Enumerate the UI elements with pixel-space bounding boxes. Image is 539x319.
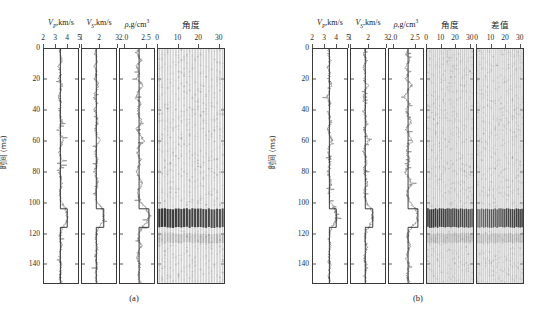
log-curve-density	[389, 48, 423, 283]
column-title-density: ρ,g/cm3	[394, 18, 419, 29]
x-tick-label-vs: 2	[97, 33, 101, 42]
x-tick-mark	[350, 44, 351, 48]
track-top-rule	[81, 48, 117, 49]
y-tick-label: 60	[302, 137, 310, 145]
x-tick-label-density: 2.5	[410, 33, 419, 42]
y-axis-label: 时间 (ms)	[0, 135, 8, 168]
log-curve-vp	[313, 48, 347, 283]
track-bottom-rule	[43, 283, 79, 284]
x-tick-label-vp: 3	[322, 33, 326, 42]
track-top-rule	[476, 48, 524, 49]
x-tick-mark	[43, 44, 44, 48]
track-bottom-rule	[426, 283, 474, 284]
x-tick-mark	[146, 44, 147, 48]
log-curve-vp	[44, 48, 78, 283]
y-tick-label: 120	[298, 230, 309, 238]
track-vs	[350, 48, 386, 283]
y-tick-label: 40	[33, 106, 41, 114]
x-tick-mark	[470, 44, 471, 48]
x-tick-mark	[441, 44, 442, 48]
x-tick-label-vp: 2	[41, 33, 45, 42]
x-tick-mark	[124, 44, 125, 48]
log-curve-density	[120, 48, 154, 283]
track-vp	[312, 48, 348, 283]
track-density	[119, 48, 155, 283]
panel-b: 时间 (ms)020406080100120140VP,km/s2345VS,k…	[269, 0, 539, 319]
x-tick-label-density: 2.0	[388, 33, 397, 42]
x-tick-label-angle-gather: 30	[466, 33, 474, 42]
column-title-vs: VS,km/s	[86, 18, 111, 29]
x-tick-label-angle-gather: 10	[174, 33, 182, 42]
x-tick-label-vs: 2	[366, 33, 370, 42]
gather-angle-gather	[158, 48, 224, 283]
x-tick-mark	[219, 44, 220, 48]
x-tick-mark	[157, 44, 158, 48]
track-bottom-rule	[388, 283, 424, 284]
x-tick-label-angle-gather: 20	[194, 33, 202, 42]
x-tick-mark	[476, 44, 477, 48]
column-title-density: ρ,g/cm3	[125, 18, 150, 29]
x-tick-mark	[79, 44, 80, 48]
track-bottom-rule	[119, 283, 155, 284]
x-tick-label-vp: 4	[65, 33, 69, 42]
x-tick-label-difference-gather: 30	[516, 33, 524, 42]
y-tick-label: 80	[302, 168, 310, 176]
x-tick-label-vs: 1	[79, 33, 83, 42]
y-tick-label: 60	[33, 137, 41, 145]
track-top-rule	[119, 48, 155, 49]
y-tick-label: 140	[298, 261, 309, 269]
panel-caption-b: (b)	[413, 293, 423, 303]
x-tick-label-angle-gather: 30	[215, 33, 223, 42]
y-axis-label: 时间 (ms)	[266, 135, 277, 168]
x-tick-mark	[368, 44, 369, 48]
x-tick-label-vp: 2	[310, 33, 314, 42]
gather-difference-gather	[477, 48, 523, 283]
column-title-vs: VS,km/s	[355, 18, 380, 29]
x-tick-label-difference-gather: 20	[501, 33, 509, 42]
x-tick-mark	[505, 44, 506, 48]
x-tick-mark	[336, 44, 337, 48]
column-title-vp: VP,km/s	[317, 18, 343, 29]
track-top-rule	[312, 48, 348, 49]
track-bottom-rule	[350, 283, 386, 284]
x-tick-mark	[491, 44, 492, 48]
track-density	[388, 48, 424, 283]
column-title-vp: VP,km/s	[48, 18, 74, 29]
x-tick-mark	[81, 44, 82, 48]
x-tick-mark	[178, 44, 179, 48]
column-title-difference-gather: 差值	[491, 18, 509, 30]
x-tick-label-vs: 1	[348, 33, 352, 42]
y-tick-label: 80	[33, 168, 41, 176]
y-tick-label: 0	[36, 44, 40, 52]
track-vp	[43, 48, 79, 283]
x-tick-label-density: 2.5	[141, 33, 150, 42]
x-tick-mark	[99, 44, 100, 48]
track-top-rule	[43, 48, 79, 49]
y-tick-label: 0	[305, 44, 309, 52]
figure-root: 时间 (ms)020406080100120140VP,km/s2345VS,k…	[0, 0, 539, 319]
x-tick-mark	[455, 44, 456, 48]
x-tick-mark	[393, 44, 394, 48]
x-tick-mark	[415, 44, 416, 48]
x-tick-label-difference-gather: 0	[474, 33, 478, 42]
panel-caption-a: (a)	[129, 293, 138, 303]
y-tick-label: 140	[29, 261, 40, 269]
log-curve-vs	[82, 48, 116, 283]
x-tick-label-angle-gather: 20	[451, 33, 459, 42]
x-tick-mark	[426, 44, 427, 48]
track-angle-gather	[426, 48, 474, 283]
x-tick-mark	[198, 44, 199, 48]
track-difference-gather	[476, 48, 524, 283]
x-tick-label-difference-gather: 10	[487, 33, 495, 42]
x-tick-label-vp: 3	[53, 33, 57, 42]
track-vs	[81, 48, 117, 283]
x-tick-mark	[117, 44, 118, 48]
column-title-angle-gather: 角度	[441, 18, 459, 30]
x-tick-label-angle-gather: 0	[424, 33, 428, 42]
x-tick-label-density: 2.0	[119, 33, 128, 42]
y-tick-label: 100	[298, 199, 309, 207]
x-tick-mark	[55, 44, 56, 48]
track-bottom-rule	[81, 283, 117, 284]
track-top-rule	[157, 48, 225, 49]
x-tick-label-angle-gather: 0	[155, 33, 159, 42]
